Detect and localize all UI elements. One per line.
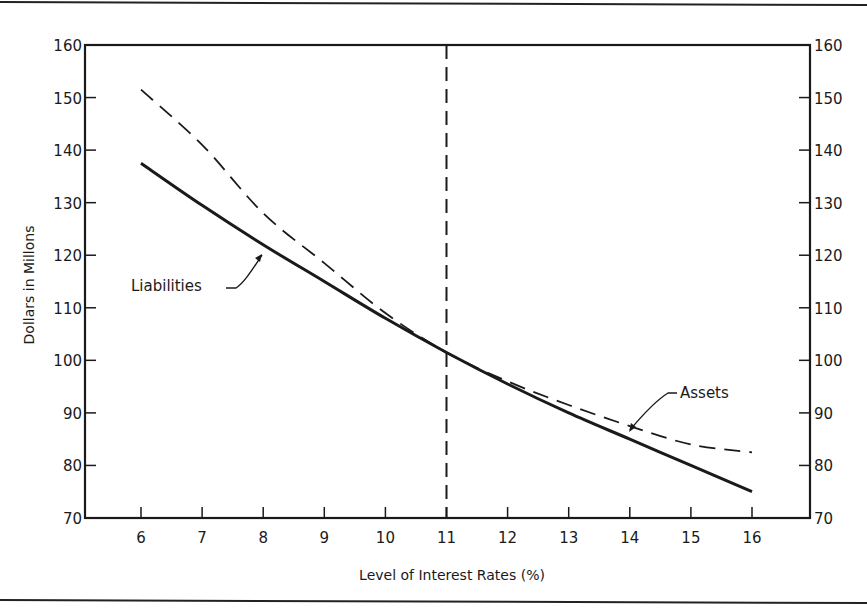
x-tick-label: 15 <box>681 529 700 547</box>
y-tick-label-left: 150 <box>53 90 82 108</box>
y-tick-label-right: 150 <box>814 90 843 108</box>
y-tick-label-right: 140 <box>814 142 843 160</box>
chart: 6789101112131415167080901001101201301401… <box>0 0 867 608</box>
x-tick-label: 9 <box>320 529 330 547</box>
bottom-rule <box>0 600 867 603</box>
y-tick-label-right: 130 <box>814 195 843 213</box>
x-tick-label: 13 <box>559 529 578 547</box>
y-tick-label-right: 120 <box>814 247 843 265</box>
y-tick-label-right: 100 <box>814 352 843 370</box>
x-tick-label: 14 <box>620 529 639 547</box>
assets-pointer <box>630 393 677 430</box>
y-tick-label-left: 160 <box>53 37 82 55</box>
y-tick-label-left: 100 <box>53 352 82 370</box>
y-tick-label-left: 80 <box>63 457 82 475</box>
x-tick-label: 7 <box>197 529 207 547</box>
x-axis-title: Level of Interest Rates (%) <box>359 567 545 583</box>
x-tick-label: 6 <box>136 529 146 547</box>
y-tick-label-right: 110 <box>814 300 843 318</box>
assets-label: Assets <box>680 384 729 402</box>
y-tick-label-right: 160 <box>814 37 843 55</box>
y-tick-label-right: 80 <box>814 457 833 475</box>
x-tick-label: 10 <box>376 529 395 547</box>
y-tick-label-right: 90 <box>814 405 833 423</box>
y-axis-title: Dollars in Millons <box>21 226 37 345</box>
y-tick-label-right: 70 <box>814 510 833 528</box>
x-tick-label: 16 <box>742 529 761 547</box>
arrowhead-icon <box>255 254 262 262</box>
liabilities-label: Liabilities <box>131 277 202 295</box>
x-tick-label: 12 <box>498 529 517 547</box>
x-tick-label: 11 <box>437 529 456 547</box>
y-tick-label-left: 110 <box>53 300 82 318</box>
y-tick-label-left: 70 <box>63 510 82 528</box>
y-tick-label-left: 90 <box>63 405 82 423</box>
y-tick-label-left: 130 <box>53 195 82 213</box>
y-tick-label-left: 120 <box>53 247 82 265</box>
y-tick-label-left: 140 <box>53 142 82 160</box>
liabilities-pointer <box>226 255 262 288</box>
x-tick-label: 8 <box>258 529 268 547</box>
top-rule <box>0 2 867 5</box>
